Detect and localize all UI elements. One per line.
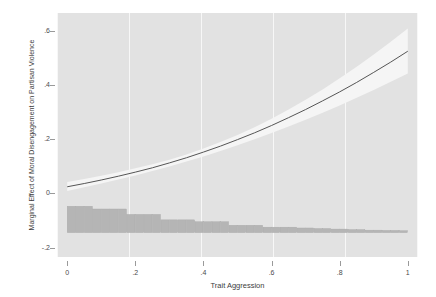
x-tick-mark: [272, 261, 273, 266]
marginal-effect-curve-layer: [57, 13, 418, 257]
y-tick-mark: [50, 85, 55, 86]
x-tick-label: .2: [120, 268, 150, 277]
marginal-effects-chart: -.20.2.4.6 0.2.4.6.81 Trait Aggression M…: [0, 0, 436, 297]
y-axis-line: [56, 13, 57, 257]
y-tick-mark: [50, 139, 55, 140]
plot-area: [57, 13, 418, 257]
y-tick-mark: [50, 31, 55, 32]
x-tick-label: .8: [325, 268, 355, 277]
y-tick: 0: [0, 189, 50, 197]
x-tick-mark: [408, 261, 409, 266]
y-tick-mark: [50, 193, 55, 194]
y-tick: .6: [0, 27, 50, 35]
y-tick-mark: [50, 248, 55, 249]
x-tick-label: .4: [188, 268, 218, 277]
x-axis-title: Trait Aggression: [57, 281, 418, 290]
y-tick: -.2: [0, 244, 50, 252]
x-tick-mark: [340, 261, 341, 266]
y-tick: .2: [0, 135, 50, 143]
y-tick: .4: [0, 81, 50, 89]
x-tick-mark: [203, 261, 204, 266]
x-tick-label: 0: [52, 268, 82, 277]
x-tick-mark: [135, 261, 136, 266]
x-tick-mark: [67, 261, 68, 266]
y-axis-title: Marginal Effect of Moral Disengagement o…: [26, 13, 38, 257]
x-tick-label: 1: [393, 268, 423, 277]
x-tick-label: .6: [257, 268, 287, 277]
